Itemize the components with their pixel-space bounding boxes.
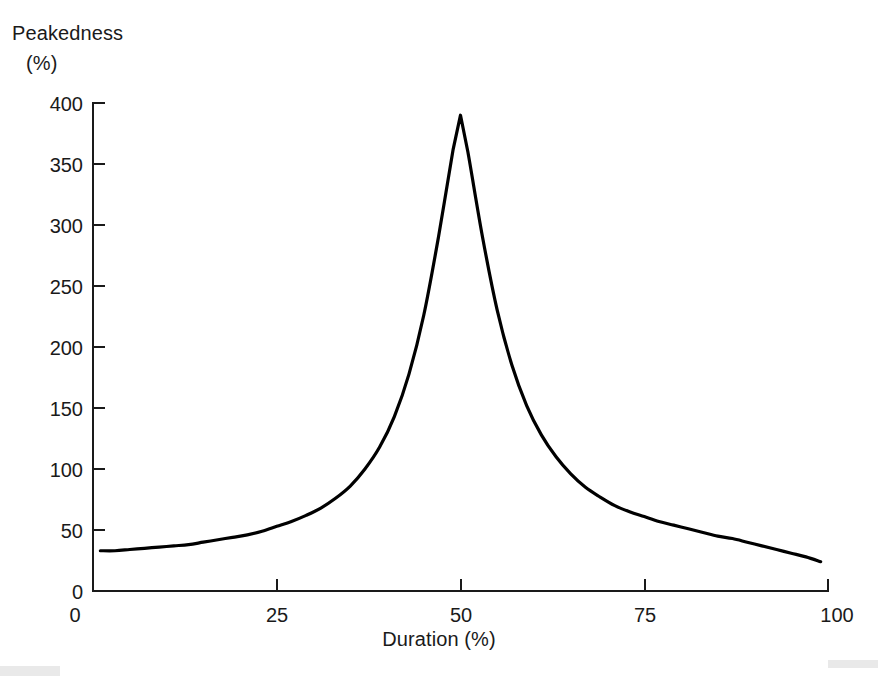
y-tick-label-300: 300 [50,215,83,237]
x-axis-title: Duration (%) [0,628,878,651]
y-tick-label-250: 250 [50,276,83,298]
y-tick-label-150: 150 [50,398,83,420]
y-tick-label-50: 50 [61,520,83,542]
y-tick-label-100: 100 [50,459,83,481]
peakedness-curve [100,115,820,562]
x-tick-label-25: 25 [266,604,288,626]
x-axis-tick-labels: 0 25 50 75 100 [69,604,853,626]
chart-plot-area: 400 350 300 250 200 150 100 50 0 0 25 50… [0,0,878,686]
scan-edge-artifact-right [828,660,878,668]
x-tick-label-75: 75 [634,604,656,626]
y-tick-label-350: 350 [50,154,83,176]
y-tick-label-200: 200 [50,337,83,359]
y-axis-ticks [93,103,105,530]
x-axis-ticks [277,579,828,591]
chart-figure: Peakedness (%) 400 350 300 [0,0,878,686]
x-tick-label-50: 50 [450,604,472,626]
y-axis-tick-labels: 400 350 300 250 200 150 100 50 0 [50,93,83,603]
y-tick-label-400: 400 [50,93,83,115]
x-tick-label-100: 100 [820,604,853,626]
x-tick-label-0: 0 [69,604,80,626]
scan-edge-artifact-left [0,666,60,676]
y-tick-label-0: 0 [72,581,83,603]
